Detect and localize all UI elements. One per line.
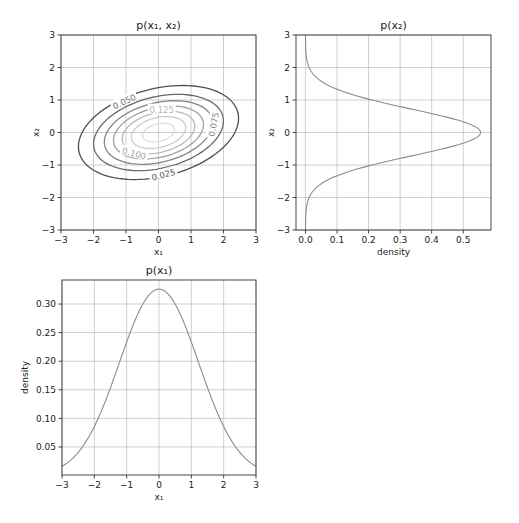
y-tick-label: −1 — [277, 160, 290, 170]
x-tick-label: 0.0 — [298, 235, 313, 245]
contour-label: 0.050 — [111, 92, 137, 111]
y-axis-label: x₂ — [266, 128, 276, 137]
y-tick-label: 0.30 — [36, 299, 56, 309]
x-tick-label: −3 — [54, 235, 67, 245]
x-tick-label: 0 — [156, 480, 162, 490]
x-tick-label: 0 — [156, 235, 162, 245]
y-tick-label: 3 — [49, 30, 55, 40]
x-tick-label: 2 — [221, 480, 227, 490]
y-tick-label: −3 — [42, 225, 55, 235]
y-tick-label: 0.25 — [36, 328, 56, 338]
y-tick-label: 1 — [49, 95, 55, 105]
y-tick-label: 2 — [49, 63, 55, 73]
contour-label: 0.075 — [207, 112, 221, 138]
x-tick-label: 3 — [253, 480, 259, 490]
y-tick-label: −2 — [277, 193, 290, 203]
figure: p(x₁, x₂)−3−2−10123−3−2−10123x₁x₂0.0250.… — [0, 0, 519, 523]
x-tick-label: 0.5 — [456, 235, 470, 245]
x-tick-label: 0.4 — [425, 235, 440, 245]
y-tick-label: 0.05 — [36, 442, 56, 452]
plot-title: p(x₂) — [380, 19, 407, 32]
x-tick-label: −3 — [55, 480, 68, 490]
x-axis-label: density — [377, 247, 411, 257]
x-axis-ticks: −3−2−10123 — [54, 230, 259, 245]
y-tick-label: −2 — [42, 193, 55, 203]
y-axis-ticks: −3−2−10123 — [277, 30, 296, 235]
plot-title: p(x₁) — [146, 264, 173, 277]
x-tick-label: 0.3 — [393, 235, 407, 245]
y-tick-label: −3 — [277, 225, 290, 235]
x-tick-label: 1 — [188, 480, 194, 490]
x-tick-label: 1 — [188, 235, 194, 245]
y-tick-label: 0 — [284, 128, 290, 138]
y-axis-label: density — [20, 360, 30, 394]
marginal-x1-plot: p(x₁)−3−2−101230.050.100.150.200.250.30x… — [20, 264, 259, 502]
y-tick-label: 3 — [284, 30, 290, 40]
grid-lines — [62, 280, 256, 475]
joint-density-contour-plot: p(x₁, x₂)−3−2−10123−3−2−10123x₁x₂0.0250.… — [31, 19, 259, 257]
x-tick-label: 0.2 — [361, 235, 375, 245]
x-axis-label: x₁ — [155, 492, 164, 502]
x-tick-label: −1 — [120, 480, 133, 490]
x-axis-label: x₁ — [154, 247, 163, 257]
marginal-x2-plot: p(x₂)0.00.10.20.30.40.5−3−2−10123density… — [266, 19, 491, 257]
y-tick-label: 1 — [284, 95, 290, 105]
y-axis-ticks: −3−2−10123 — [42, 30, 61, 235]
y-axis-ticks: 0.050.100.150.200.250.30 — [36, 299, 62, 452]
y-axis-label: x₂ — [31, 128, 41, 137]
x-tick-label: 2 — [221, 235, 227, 245]
y-tick-label: 0.10 — [36, 414, 56, 424]
y-tick-label: −1 — [42, 160, 55, 170]
contour-label: 0.125 — [150, 105, 174, 115]
x-tick-label: −2 — [87, 235, 100, 245]
x-tick-label: −2 — [88, 480, 101, 490]
y-tick-label: 0 — [49, 128, 55, 138]
x-axis-ticks: −3−2−10123 — [55, 475, 259, 490]
grid-lines — [296, 35, 491, 230]
y-tick-label: 0.15 — [36, 385, 56, 395]
y-tick-label: 2 — [284, 63, 290, 73]
x-tick-label: 0.1 — [330, 235, 344, 245]
plot-title: p(x₁, x₂) — [136, 19, 180, 32]
x-axis-ticks: 0.00.10.20.30.40.5 — [298, 230, 470, 245]
x-tick-label: −1 — [119, 235, 132, 245]
x-tick-label: 3 — [253, 235, 259, 245]
grid-lines — [61, 35, 256, 230]
y-tick-label: 0.20 — [36, 356, 56, 366]
